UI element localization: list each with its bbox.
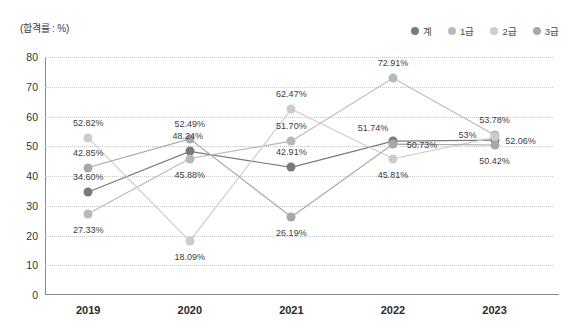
chart-legend: 계1급2급3급 [411, 24, 559, 38]
data-label: 45.81% [378, 170, 409, 180]
x-axis-tick-label: 2023 [482, 304, 506, 316]
y-axis-tick-label: 70 [26, 81, 38, 93]
data-label: 26.19% [276, 228, 307, 238]
data-point[interactable] [185, 154, 194, 163]
data-label: 34.60% [73, 172, 104, 182]
x-axis-tick-label: 2021 [279, 304, 303, 316]
data-label: 52.06% [505, 136, 536, 146]
data-label: 42.85% [73, 148, 104, 158]
data-point[interactable] [287, 213, 296, 222]
legend-marker-icon [448, 27, 456, 35]
x-axis-tick-label: 2020 [178, 304, 202, 316]
data-point[interactable] [84, 133, 93, 142]
data-point[interactable] [287, 137, 296, 146]
legend-item-계[interactable]: 계 [411, 24, 432, 38]
data-label: 48.24% [173, 131, 204, 141]
plot-area: 01020304050607080 34.60%48.24%42.91%51.7… [45, 57, 553, 295]
data-point[interactable] [287, 105, 296, 114]
data-label: 52.49% [175, 119, 206, 129]
data-point[interactable] [185, 237, 194, 246]
x-axis-tick-label: 2019 [76, 304, 100, 316]
legend-label: 계 [423, 24, 432, 38]
data-point[interactable] [287, 163, 296, 172]
data-label: 45.88% [175, 170, 206, 180]
data-label: 51.74% [358, 123, 389, 133]
data-label: 42.91% [276, 147, 307, 157]
legend-item-1급[interactable]: 1급 [448, 24, 474, 38]
data-point[interactable] [388, 74, 397, 83]
y-axis-tick-label: 10 [26, 259, 38, 271]
legend-marker-icon [411, 27, 419, 35]
legend-label: 3급 [545, 24, 559, 38]
y-axis-tick-label: 0 [32, 289, 38, 301]
y-axis-tick-label: 60 [26, 111, 38, 123]
legend-label: 2급 [502, 24, 516, 38]
data-label: 53% [459, 130, 477, 140]
chart-container: (합격률 : %) 계1급2급3급 01020304050607080 34.6… [0, 0, 571, 329]
data-point[interactable] [490, 141, 499, 150]
y-axis-tick-label: 20 [26, 230, 38, 242]
data-label: 62.47% [276, 89, 307, 99]
y-axis-tick-label: 80 [26, 51, 38, 63]
data-label: 52.82% [73, 118, 104, 128]
legend-marker-icon [490, 27, 498, 35]
y-axis-tick-label: 30 [26, 200, 38, 212]
data-label: 50.42% [479, 156, 510, 166]
data-label: 72.91% [378, 58, 409, 68]
legend-item-3급[interactable]: 3급 [533, 24, 559, 38]
legend-marker-icon [533, 27, 541, 35]
data-point[interactable] [84, 209, 93, 218]
data-point[interactable] [84, 163, 93, 172]
y-axis-tick-label: 40 [26, 170, 38, 182]
legend-label: 1급 [460, 24, 474, 38]
legend-item-2급[interactable]: 2급 [490, 24, 516, 38]
data-label: 18.09% [175, 252, 206, 262]
data-label: 53.78% [479, 115, 510, 125]
y-axis-tick-label: 50 [26, 140, 38, 152]
y-axis-unit-note: (합격률 : %) [20, 20, 69, 35]
data-point[interactable] [388, 140, 397, 149]
data-label: 27.33% [73, 225, 104, 235]
data-label: 51.70% [276, 121, 307, 131]
data-label: 50.73% [407, 140, 438, 150]
data-point[interactable] [84, 188, 93, 197]
x-axis-tick-label: 2022 [381, 304, 405, 316]
data-point[interactable] [388, 154, 397, 163]
